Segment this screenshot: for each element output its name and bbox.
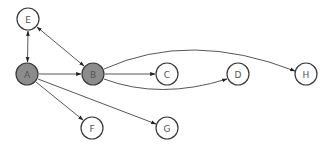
node-b: B (82, 63, 104, 85)
node-label: D (235, 70, 242, 80)
node-c: C (156, 63, 178, 85)
edge-a-f (36, 82, 83, 120)
node-h: H (295, 63, 317, 85)
node-label: H (303, 70, 310, 80)
edge-e-b (37, 27, 84, 66)
node-e: E (17, 8, 39, 30)
node-a: A (16, 63, 38, 85)
node-label: C (164, 70, 170, 80)
node-f: F (81, 117, 103, 139)
node-label: B (90, 70, 96, 80)
node-label: G (164, 124, 171, 134)
node-d: D (227, 63, 249, 85)
node-label: E (25, 15, 31, 25)
graph-diagram: EABCDHFG (0, 0, 329, 150)
node-g: G (156, 117, 178, 139)
node-label: F (89, 124, 94, 134)
edge-b-h (104, 50, 295, 71)
edge-e-a (28, 31, 29, 62)
edge-a-g (38, 79, 156, 124)
node-label: A (24, 70, 31, 80)
